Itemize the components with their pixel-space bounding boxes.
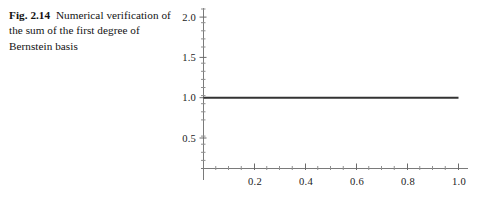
x-tick-label-0.8: 0.8 — [401, 176, 415, 187]
axes-group — [201, 8, 468, 180]
x-tick-label-1.0: 1.0 — [452, 176, 466, 187]
x-tick-label-0.4: 0.4 — [299, 176, 313, 187]
x-axis-major-ticks — [255, 164, 459, 171]
y-tick-label-1.5: 1.5 — [182, 52, 196, 63]
bernstein-sum-plot: 2.0 1.5 1.0 0.5 0.2 0.4 0.6 0.8 1.0 — [0, 0, 484, 198]
y-tick-label-0.5: 0.5 — [182, 133, 196, 144]
y-tick-label-2.0: 2.0 — [182, 12, 196, 23]
x-tick-label-0.6: 0.6 — [350, 176, 364, 187]
y-tick-label-1.0: 1.0 — [182, 92, 196, 103]
figure-plot-area: 2.0 1.5 1.0 0.5 0.2 0.4 0.6 0.8 1.0 — [0, 0, 484, 198]
x-tick-label-0.2: 0.2 — [248, 176, 262, 187]
